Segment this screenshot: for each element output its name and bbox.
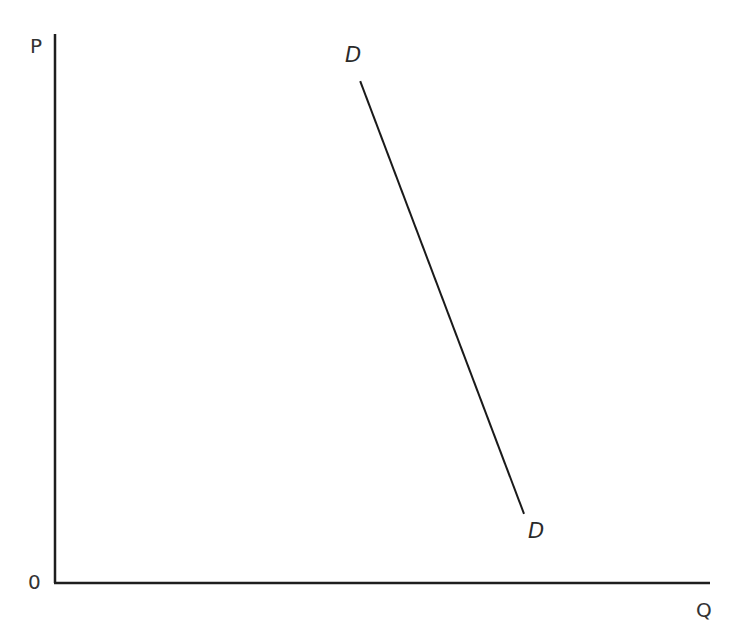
demand-label-bottom: D [528, 521, 544, 542]
x-axis-label: Q [696, 600, 712, 620]
y-axis-label: P [30, 36, 42, 56]
chart-canvas [0, 0, 745, 644]
origin-label: 0 [28, 572, 41, 592]
demand-curve [360, 81, 524, 514]
demand-label-top: D [345, 45, 361, 66]
